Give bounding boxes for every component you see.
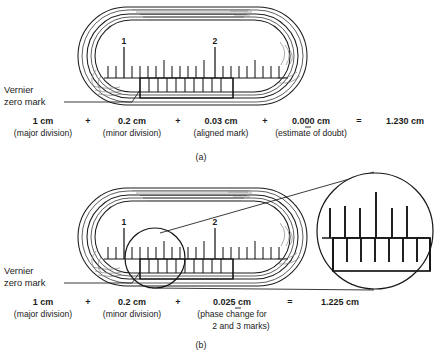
caliper-jaw-body-b <box>87 195 298 279</box>
result-value-a: 1.230 cm <box>386 116 424 126</box>
caliper-outer-shell-b <box>78 188 307 286</box>
term-sub-3-a: (estimate of doubt) <box>275 128 347 138</box>
caliper-body-a <box>78 7 307 105</box>
equation-b: 1 cm (major division) + 0.2 cm (minor di… <box>14 297 359 331</box>
equals-sign-a: = <box>356 116 361 126</box>
caliper-body-b <box>78 188 307 286</box>
term-value-1-b: 0.2 cm <box>118 297 146 307</box>
equals-sign-b: = <box>287 297 292 307</box>
main-scale-number-1-a: 1 <box>122 36 127 46</box>
term-value-0-a: 1 cm <box>33 116 54 126</box>
panel-a: 1 2 Vernier zero mark 1 cm (major divisi… <box>4 7 424 162</box>
magnifier-lens-b <box>317 173 433 289</box>
caliper-hatching-a <box>92 10 300 96</box>
caliper-shell-4-b <box>91 198 294 276</box>
term-sub2-2-b: 2 and 3 marks) <box>212 321 269 331</box>
term-sub-1-a: (minor division) <box>103 128 161 138</box>
operator-1-a: + <box>175 116 180 126</box>
caliper-hatching-b <box>92 191 300 277</box>
main-scale-number-2-b: 2 <box>213 217 218 227</box>
vernier-zero-mark-label-line1-b: Vernier <box>4 266 33 276</box>
operator-2-a: + <box>262 116 267 126</box>
caliper-outer-shell-a <box>78 7 307 105</box>
panel-b: 1 2 <box>4 172 433 350</box>
vernier-zero-mark-leader-b <box>64 272 140 283</box>
vernier-zero-mark-label-line1-a: Vernier <box>4 85 33 95</box>
main-scale-number-1-b: 1 <box>122 217 127 227</box>
panel-caption-b: (b) <box>196 340 207 350</box>
term-sub-0-a: (major division) <box>14 128 72 138</box>
vernier-zero-mark-label-line2-a: zero mark <box>4 97 46 107</box>
main-scale-ticks-b <box>108 228 279 259</box>
term-value-2-b: 0.025 cm <box>213 297 251 307</box>
main-scale-number-2-a: 2 <box>213 36 218 46</box>
operator-1-b: + <box>175 297 180 307</box>
vernier-zero-mark-label-line2-b: zero mark <box>4 278 46 288</box>
term-sub-1-b: (minor division) <box>103 309 161 319</box>
caliper-jaw-body-a <box>87 14 298 98</box>
operator-0-b: + <box>85 297 90 307</box>
term-value-2-a: 0.03 cm <box>204 116 237 126</box>
result-value-b: 1.225 cm <box>321 297 359 307</box>
equation-a: 1 cm (major division) + 0.2 cm (minor di… <box>14 116 424 138</box>
operator-0-a: + <box>85 116 90 126</box>
term-value-1-a: 0.2 cm <box>118 116 146 126</box>
caliper-shell-4-a <box>91 17 294 95</box>
figure-canvas: 1 2 Vernier zero mark 1 cm (major divisi… <box>0 0 445 355</box>
panel-caption-a: (a) <box>196 152 207 162</box>
vernier-figure: 1 2 Vernier zero mark 1 cm (major divisi… <box>0 0 445 355</box>
main-scale-ticks-a <box>108 47 279 78</box>
term-sub-0-b: (major division) <box>14 309 72 319</box>
term-sub-2-b: (phase change for <box>197 309 266 319</box>
term-value-0-b: 1 cm <box>33 297 54 307</box>
term-value-3-a: 0.000 cm <box>292 116 330 126</box>
term-sub-2-a: (aligned mark) <box>194 128 249 138</box>
